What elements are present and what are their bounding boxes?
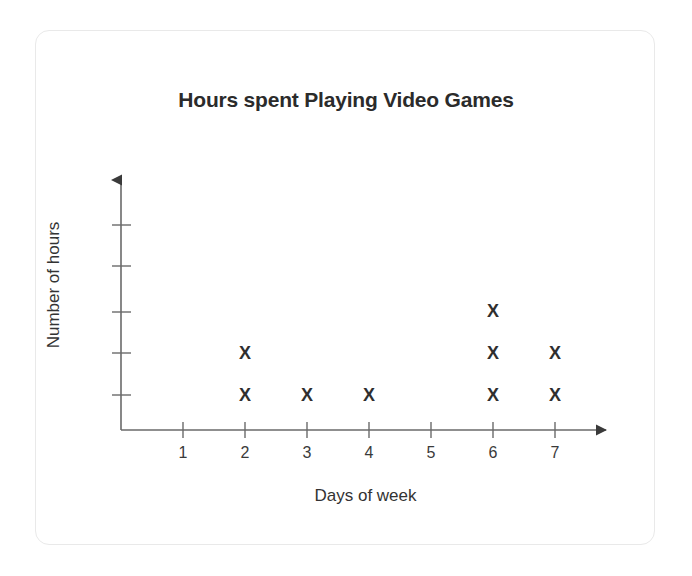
data-mark-day6-1: X xyxy=(481,383,505,407)
x-axis-label: Days of week xyxy=(121,486,610,506)
x-tick-label-2: 2 xyxy=(225,444,265,462)
data-mark-day7-2: X xyxy=(543,341,567,365)
x-tick-label-1: 1 xyxy=(163,444,203,462)
data-mark-day6-2: X xyxy=(481,341,505,365)
x-tick-label-7: 7 xyxy=(535,444,575,462)
x-tick-label-3: 3 xyxy=(287,444,327,462)
data-mark-day2-1: X xyxy=(233,383,257,407)
x-tick-label-6: 6 xyxy=(473,444,513,462)
data-mark-day7-1: X xyxy=(543,383,567,407)
x-tick-label-5: 5 xyxy=(411,444,451,462)
data-mark-day3-1: X xyxy=(295,383,319,407)
y-axis-label: Number of hours xyxy=(44,195,66,375)
data-mark-day6-3: X xyxy=(481,299,505,323)
x-tick-label-4: 4 xyxy=(349,444,389,462)
data-mark-day4-1: X xyxy=(357,383,381,407)
chart-canvas: Hours spent Playing Video Games xyxy=(0,0,692,576)
data-mark-day2-2: X xyxy=(233,341,257,365)
